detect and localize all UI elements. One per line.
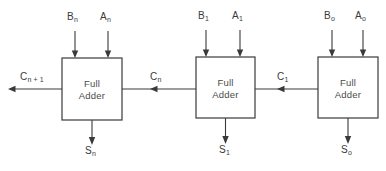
label-sum-s-0-base: S — [341, 144, 348, 155]
label-input-b-1-sub: 1 — [205, 15, 209, 22]
label-input-a-1: A1 — [232, 11, 243, 22]
arrowhead-s-1-icon — [222, 136, 228, 144]
arrowhead-s-0-icon — [345, 136, 351, 144]
label-input-a-n: An — [100, 12, 111, 23]
label-input-a-n-base: A — [100, 11, 107, 22]
label-input-a-1-sub: 1 — [239, 15, 243, 22]
label-input-b-0: Bo — [324, 11, 335, 22]
label-sum-s-0: So — [341, 145, 352, 156]
label-input-a-0: Ao — [355, 11, 366, 22]
arrowhead-b-0-icon — [329, 50, 335, 58]
arrowhead-c-n-plus-1-icon — [8, 86, 16, 92]
label-input-b-1: B1 — [198, 11, 209, 22]
label-carry-c-1: C1 — [277, 72, 288, 83]
full-adder-chain-diagram: Full Adder Full Adder — [0, 0, 386, 171]
label-input-b-0-sub: o — [331, 15, 335, 22]
arrowhead-a-0-icon — [360, 50, 366, 58]
arrowhead-b-n-icon — [72, 51, 78, 59]
label-carry-out-c-n-plus-1-sub: n + 1 — [27, 76, 43, 83]
label-sum-s-0-sub: o — [348, 149, 352, 156]
label-input-a-0-sub: o — [362, 15, 366, 22]
label-input-a-0-base: A — [355, 10, 362, 21]
full-adder-box-0-label-line2: Adder — [335, 89, 361, 100]
label-input-b-n: Bn — [67, 12, 78, 23]
label-input-b-1-base: B — [198, 10, 205, 21]
arrowhead-s-n-icon — [89, 137, 95, 145]
arrowhead-a-n-icon — [105, 51, 111, 59]
arrowhead-c-1-link-icon — [277, 86, 285, 92]
label-carry-c-n: Cn — [150, 72, 161, 83]
arrowhead-c-n-link-icon — [150, 86, 158, 92]
label-sum-s-n: Sn — [85, 146, 96, 157]
label-input-b-0-base: B — [324, 10, 331, 21]
full-adder-box-0-label-line1: Full — [340, 77, 356, 88]
label-carry-out-c-n-plus-1: Cn + 1 — [20, 72, 44, 83]
full-adder-box-n-label-line1: Full — [84, 78, 100, 89]
carry-link-c-1-group — [255, 86, 318, 92]
label-input-b-n-base: B — [67, 11, 74, 22]
label-sum-s-1: S1 — [219, 145, 230, 156]
label-sum-s-n-sub: n — [92, 150, 96, 157]
label-sum-s-1-base: S — [219, 144, 226, 155]
diagram-canvas: Full Adder Full Adder — [0, 0, 386, 171]
stage-0-group: Full Adder — [318, 30, 378, 144]
label-sum-s-1-sub: 1 — [226, 149, 230, 156]
label-sum-s-n-base: S — [85, 145, 92, 156]
stage-1-group: Full Adder — [196, 30, 255, 144]
stage-n-group: Full Adder — [8, 31, 122, 145]
full-adder-box-n-label-line2: Adder — [79, 90, 105, 101]
full-adder-box-1-label-line1: Full — [217, 77, 233, 88]
carry-link-c-n-group — [122, 86, 196, 92]
label-input-a-n-sub: n — [107, 16, 111, 23]
arrowhead-a-1-icon — [237, 50, 243, 58]
label-input-b-n-sub: n — [74, 16, 78, 23]
arrowhead-b-1-icon — [203, 50, 209, 58]
full-adder-box-n — [62, 58, 122, 120]
label-input-a-1-base: A — [232, 10, 239, 21]
label-carry-c-1-sub: 1 — [284, 76, 288, 83]
label-carry-c-n-sub: n — [157, 76, 161, 83]
full-adder-box-1-label-line2: Adder — [212, 89, 238, 100]
